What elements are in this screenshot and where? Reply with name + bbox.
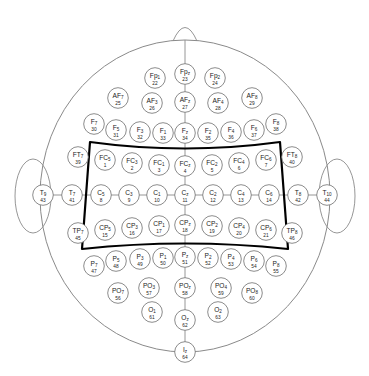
electrode-subscript: 1 xyxy=(158,192,161,197)
electrode-subscript: 9 xyxy=(44,192,47,197)
electrode-f4[interactable]: F436 xyxy=(221,122,242,143)
electrode-channel-number: 61 xyxy=(149,315,155,320)
electrode-ft7[interactable]: FT739 xyxy=(68,147,89,168)
electrode-channel-number: 26 xyxy=(149,106,155,111)
electrode-afz[interactable]: AFz27 xyxy=(175,92,196,113)
electrode-f2[interactable]: F235 xyxy=(198,123,219,144)
electrode-c6[interactable]: C614 xyxy=(259,185,280,206)
electrode-oz[interactable]: Oz62 xyxy=(175,310,196,331)
electrode-channel-number: 23 xyxy=(182,77,188,82)
electrode-channel-number: 3 xyxy=(158,168,161,173)
electrode-channel-number: 42 xyxy=(295,198,301,203)
electrode-fc4[interactable]: FC46 xyxy=(229,153,250,174)
electrode-channel-number: 53 xyxy=(228,262,234,267)
electrode-cp3[interactable]: CP316 xyxy=(122,218,143,239)
electrode-af4[interactable]: AF428 xyxy=(208,93,229,114)
electrode-f6[interactable]: F637 xyxy=(244,120,265,141)
electrode-po4[interactable]: PO459 xyxy=(211,278,232,299)
electrode-fc5[interactable]: FC51 xyxy=(95,150,116,171)
electrode-p3[interactable]: P349 xyxy=(130,249,151,270)
electrode-p2[interactable]: P252 xyxy=(198,248,219,269)
electrode-fp2[interactable]: Fp224 xyxy=(205,68,226,89)
electrode-subscript: 7 xyxy=(81,230,84,235)
electrode-c1[interactable]: C110 xyxy=(147,185,168,206)
electrode-channel-number: 6 xyxy=(238,166,241,171)
electrode-f8[interactable]: F838 xyxy=(266,114,287,135)
electrode-fc2[interactable]: FC25 xyxy=(202,155,223,176)
electrode-c2[interactable]: C212 xyxy=(203,185,224,206)
electrode-channel-number: 41 xyxy=(69,198,75,203)
electrode-subscript: 7 xyxy=(81,154,84,159)
electrode-poz[interactable]: POz58 xyxy=(175,278,196,299)
electrode-p8[interactable]: P855 xyxy=(266,256,287,277)
electrode-channel-number: 2 xyxy=(131,166,134,171)
electrode-fcz[interactable]: FCz4 xyxy=(175,156,196,177)
electrode-af7[interactable]: AF725 xyxy=(108,88,129,109)
electrode-iz[interactable]: Iz64 xyxy=(175,342,196,363)
electrode-channel-number: 37 xyxy=(251,133,257,138)
electrode-ft8[interactable]: FT840 xyxy=(282,147,303,168)
electrode-row-fp: Fp122Fpz23Fp224 xyxy=(145,64,226,89)
electrode-channel-number: 27 xyxy=(182,105,188,110)
electrode-cp2[interactable]: CP219 xyxy=(202,216,223,237)
electrode-fpz[interactable]: Fpz23 xyxy=(175,64,196,85)
electrode-p7[interactable]: P747 xyxy=(84,256,105,277)
electrode-fc3[interactable]: FC32 xyxy=(122,153,143,174)
electrode-p6[interactable]: P654 xyxy=(244,251,265,272)
electrode-p4[interactable]: P453 xyxy=(221,249,242,270)
electrode-c5[interactable]: C58 xyxy=(91,185,112,206)
electrode-subscript: 2 xyxy=(214,192,217,197)
electrode-channel-number: 16 xyxy=(129,231,135,236)
electrode-subscript: 2 xyxy=(209,130,212,135)
electrode-t9[interactable]: T943 xyxy=(33,185,54,206)
electrode-cp1[interactable]: CP117 xyxy=(149,216,170,237)
electrode-f7[interactable]: F730 xyxy=(84,114,105,135)
electrode-po8[interactable]: PO860 xyxy=(242,283,263,304)
electrode-o1[interactable]: O161 xyxy=(142,302,163,323)
electrode-subscript: 2 xyxy=(218,75,221,80)
electrode-subscript: 8 xyxy=(295,230,298,235)
electrode-subscript: 6 xyxy=(270,192,273,197)
electrode-cp5[interactable]: CP515 xyxy=(95,220,116,241)
electrode-fc6[interactable]: FC67 xyxy=(256,150,277,171)
electrode-t10[interactable]: T1044 xyxy=(317,185,338,206)
electrode-t7[interactable]: T741 xyxy=(62,185,83,206)
electrode-o2[interactable]: O263 xyxy=(208,302,229,323)
electrode-fp1[interactable]: Fp122 xyxy=(145,68,166,89)
electrode-po7[interactable]: PO756 xyxy=(108,283,129,304)
electrode-channel-number: 12 xyxy=(210,198,216,203)
electrode-subscript: 2 xyxy=(209,255,212,260)
electrode-cpz[interactable]: CPz18 xyxy=(175,215,196,236)
electrode-cp6[interactable]: CP621 xyxy=(256,220,277,241)
electrode-c4[interactable]: C413 xyxy=(231,185,252,206)
electrode-channel-number: 15 xyxy=(102,233,108,238)
electrode-af8[interactable]: AF829 xyxy=(242,88,263,109)
electrode-fz[interactable]: Fz34 xyxy=(175,123,196,144)
electrode-f5[interactable]: F531 xyxy=(106,120,127,141)
electrode-subscript: 1 xyxy=(162,162,165,167)
electrode-channel-number: 11 xyxy=(183,198,188,203)
electrode-af3[interactable]: AF326 xyxy=(142,93,163,114)
electrode-subscript: 4 xyxy=(232,129,235,134)
electrode-f1[interactable]: F133 xyxy=(153,123,174,144)
electrode-t8[interactable]: T842 xyxy=(288,185,309,206)
electrode-subscript: 5 xyxy=(108,227,111,232)
electrode-channel-number: 10 xyxy=(154,198,160,203)
electrode-channel-number: 13 xyxy=(238,198,244,203)
electrode-subscript: 6 xyxy=(255,127,258,132)
electrode-cz[interactable]: Cz11 xyxy=(175,185,196,206)
electrode-c3[interactable]: C39 xyxy=(119,185,140,206)
electrode-f3[interactable]: F332 xyxy=(130,122,151,143)
electrode-pz[interactable]: Pz51 xyxy=(175,247,196,268)
electrode-cp4[interactable]: CP420 xyxy=(229,218,250,239)
electrode-tp8[interactable]: TP846 xyxy=(282,223,303,244)
electrode-po3[interactable]: PO357 xyxy=(139,278,160,299)
electrode-tp7[interactable]: TP745 xyxy=(68,223,89,244)
electrode-subscript: 8 xyxy=(299,192,302,197)
electrode-fc1[interactable]: FC13 xyxy=(149,155,170,176)
electrode-channel-number: 28 xyxy=(215,106,221,111)
electrode-channel-number: 18 xyxy=(182,228,188,233)
electrode-subscript: 10 xyxy=(326,192,332,197)
electrode-p1[interactable]: P150 xyxy=(153,248,174,269)
electrode-p5[interactable]: P548 xyxy=(106,251,127,272)
